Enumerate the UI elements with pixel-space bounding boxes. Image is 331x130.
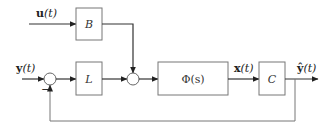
block-C: C — [259, 62, 285, 95]
input-y-signal: y(t) — [15, 62, 44, 79]
block-B: B — [76, 8, 102, 40]
input-u-signal: u(t) — [29, 7, 76, 24]
B-to-sum2-wire — [102, 24, 133, 73]
summing-junction-2 — [127, 73, 139, 85]
yhat-label: ŷ(t) — [296, 62, 316, 75]
block-phi: Φ(s) — [158, 62, 228, 95]
block-diagram: u(t) B y(t) − L Φ(s) x(t) C ŷ(t) — [0, 0, 331, 130]
block-C-label: C — [268, 73, 277, 86]
minus-sign: − — [41, 83, 50, 96]
block-L-label: L — [84, 73, 92, 86]
u-label: u(t) — [36, 7, 57, 20]
block-L: L — [76, 62, 102, 95]
block-phi-label: Φ(s) — [181, 73, 204, 86]
x-label: x(t) — [234, 62, 254, 75]
y-label: y(t) — [15, 62, 35, 75]
block-B-label: B — [84, 18, 93, 31]
